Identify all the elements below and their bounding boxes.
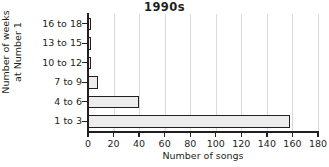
- y-tick-10-to-12: [82, 62, 88, 63]
- x-axis-title: Number of songs: [88, 150, 318, 162]
- x-tick-40: [138, 132, 139, 137]
- y-axis-line: [87, 13, 89, 132]
- x-tick-20: [113, 132, 114, 137]
- x-tick-60: [164, 132, 165, 137]
- x-tick-0: [87, 132, 88, 137]
- gridline-180: [318, 14, 319, 131]
- bar-7-to-9: [88, 76, 98, 89]
- y-axis-label-10-to-12: 10 to 12: [0, 58, 82, 68]
- plot-area: [88, 14, 318, 131]
- y-tick-13-to-15: [82, 43, 88, 44]
- x-tick-100: [215, 132, 216, 137]
- y-tick-16-to-18: [82, 23, 88, 24]
- chart-title: 1990s: [0, 0, 329, 14]
- bar-chart: 1990s Number of weeks at Number 1 16 to …: [0, 0, 329, 167]
- y-axis-label-1-to-3: 1 to 3: [0, 116, 82, 126]
- y-tick-4-to-6: [82, 101, 88, 102]
- y-axis-label-16-to-18: 16 to 18: [0, 19, 82, 29]
- x-axis-label-180: 180: [298, 138, 329, 149]
- x-tick-140: [266, 132, 267, 137]
- x-tick-120: [241, 132, 242, 137]
- x-tick-180: [317, 132, 318, 137]
- bar-4-to-6: [88, 96, 139, 109]
- y-axis-label-4-to-6: 4 to 6: [0, 97, 82, 107]
- y-axis-label-13-to-15: 13 to 15: [0, 38, 82, 48]
- x-tick-80: [190, 132, 191, 137]
- y-tick-7-to-9: [82, 82, 88, 83]
- y-tick-1-to-3: [82, 121, 88, 122]
- x-axis-line: [87, 131, 319, 133]
- bar-1-to-3: [88, 115, 290, 128]
- y-axis-label-7-to-9: 7 to 9: [0, 77, 82, 87]
- x-tick-160: [292, 132, 293, 137]
